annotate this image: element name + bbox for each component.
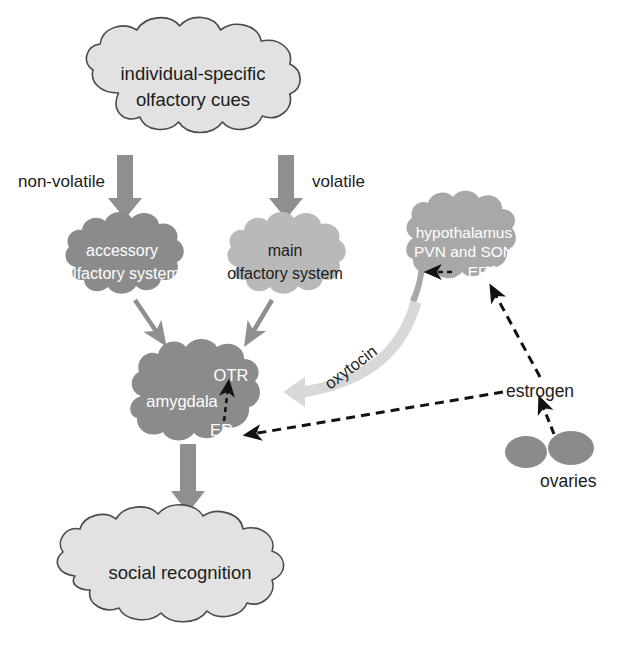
node-main-olfactory-system[interactable]: main olfactory system [227,212,346,294]
main-olfactory-line2: olfactory system [227,265,343,282]
label-volatile: volatile [312,172,365,191]
edge-amygdala-to-social-recognition[interactable] [171,444,205,513]
edge-volatile[interactable]: volatile [269,155,365,219]
accessory-olfactory-line1: accessory [86,242,158,259]
accessory-olfactory-line2: olfactory system [64,265,180,282]
olfactory-cues-line1: individual-specific [121,63,266,84]
edge-non-volatile[interactable]: non-volatile [18,155,142,219]
arrow-amygdala-to-social [171,444,205,513]
node-accessory-olfactory-system[interactable]: accessory olfactory system [64,212,184,294]
edge-estrogen-to-erbeta[interactable] [494,292,540,377]
arrow-estrogen-to-erbeta [494,292,540,377]
edge-ovaries-to-estrogen[interactable] [542,404,554,434]
arrow-volatile [269,155,303,219]
amygdala-receptor-era: ERa [210,421,243,439]
node-olfactory-cues[interactable]: individual-specific olfactory cues [86,17,300,132]
node-hypothalamus[interactable]: hypothalamus PVN and SON ERβ [406,191,516,303]
node-estrogen[interactable]: estrogen [506,381,574,401]
arrow-oxytocin-head [283,377,305,407]
arrow-estrogen-to-era [252,392,503,434]
edge-accessory-to-amygdala[interactable] [135,300,160,337]
node-social-recognition[interactable]: social recognition [57,505,283,622]
amygdala-receptor-otr: OTR [214,366,249,384]
arrow-main-to-amygdala [250,300,272,337]
ovaries-label: ovaries [540,471,597,491]
diagram-scene: individual-specific olfactory cues non-v… [0,0,635,650]
estrogen-label: estrogen [506,381,574,401]
hypothalamus-line3-erbeta: ERβ [468,263,499,280]
arrow-ovaries-to-estrogen [542,404,554,434]
ovary-right-shape [548,431,594,465]
node-amygdala[interactable]: amygdala OTR ERa [130,339,260,440]
main-olfactory-line1: main [268,242,303,259]
ovary-left-shape [505,436,547,468]
arrow-non-volatile [108,155,142,219]
olfactory-cues-line2: olfactory cues [136,89,250,110]
label-non-volatile: non-volatile [18,172,105,191]
social-recognition-label: social recognition [109,562,252,583]
diagram-canvas: individual-specific olfactory cues non-v… [0,0,635,650]
edge-oxytocin[interactable]: oxytocin [283,302,416,407]
arrow-oxytocin-curve [303,302,416,392]
node-ovaries[interactable]: ovaries [505,431,597,491]
hypothalamus-line2: PVN and SON [414,243,514,260]
hypothalamus-stem [410,265,425,303]
edge-main-to-amygdala[interactable] [250,300,272,337]
amygdala-label: amygdala [146,392,218,410]
arrow-accessory-to-amygdala [135,300,160,337]
edge-estrogen-to-era[interactable] [252,392,503,434]
hypothalamus-line1: hypothalamus [416,224,513,241]
